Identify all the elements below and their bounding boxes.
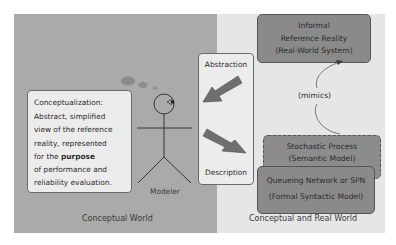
thought-bubble-icon <box>121 77 158 90</box>
diagram-graphics <box>0 0 396 245</box>
description-arrow-icon <box>203 129 246 153</box>
abstraction-arrow-icon <box>203 76 242 102</box>
stick-figure-icon <box>137 94 192 183</box>
mimics-arrow-icon <box>315 60 343 134</box>
modeler-label: Modeler <box>150 187 180 196</box>
